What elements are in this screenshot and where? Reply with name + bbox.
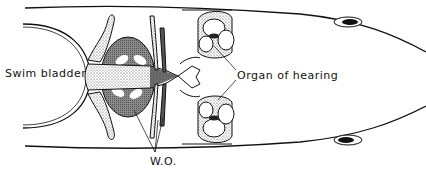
inner-ear-upper <box>198 11 234 58</box>
label-weberian-ossicles: W.O. <box>150 155 177 168</box>
inner-ear-lower <box>198 96 234 143</box>
label-swim-bladder: Swim bladder <box>5 67 86 80</box>
label-organ-of-hearing: Organ of hearing <box>237 69 338 82</box>
fish-anatomy-diagram <box>0 0 426 174</box>
